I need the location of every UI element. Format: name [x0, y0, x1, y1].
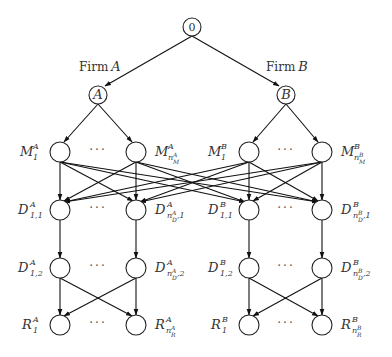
label-D-B-11: D B 1,1	[207, 200, 233, 220]
label-D-B-nD1: D B n B D ,1	[340, 200, 371, 223]
svg-text:D: D	[154, 202, 166, 217]
label-D-B-12: D B 1,2	[207, 258, 233, 278]
svg-text:···: ···	[89, 143, 106, 157]
supply-chain-tree-diagram: 0 A B FirmA FirmB ···	[0, 0, 392, 357]
svg-text:,1: ,1	[363, 211, 371, 220]
svg-text:M: M	[358, 158, 366, 165]
root-node: 0	[183, 18, 201, 36]
svg-text:1,2: 1,2	[30, 269, 43, 278]
svg-text:,2: ,2	[363, 269, 371, 278]
svg-text:A: A	[166, 258, 173, 267]
label-R-A-nR: R A n A R	[154, 315, 176, 338]
svg-text:A: A	[29, 258, 36, 267]
svg-text:FirmA: FirmA	[79, 59, 121, 74]
svg-text:M: M	[207, 144, 222, 159]
svg-text:M: M	[154, 144, 169, 159]
svg-text:···: ···	[89, 259, 106, 273]
d1-to-d2-edges	[60, 220, 322, 258]
svg-text:R: R	[210, 317, 221, 332]
svg-text:1,1: 1,1	[220, 211, 233, 220]
svg-text:B: B	[352, 200, 359, 209]
svg-text:R: R	[154, 317, 165, 332]
svg-text:M: M	[172, 158, 180, 165]
svg-text:B: B	[221, 315, 228, 324]
svg-text:,1: ,1	[177, 211, 185, 220]
svg-text:···: ···	[277, 316, 294, 330]
svg-text:R: R	[356, 331, 362, 338]
svg-text:1,2: 1,2	[220, 269, 233, 278]
svg-text:1: 1	[33, 153, 38, 162]
firm-B-node: B	[277, 86, 295, 104]
svg-text:A: A	[32, 142, 39, 151]
svg-text:B: B	[352, 258, 359, 267]
svg-text:,2: ,2	[177, 269, 185, 278]
label-D-A-12: D A 1,2	[17, 258, 43, 278]
label-D-A-11: D A 1,1	[17, 200, 43, 220]
firm-A-edge-label: FirmA	[79, 59, 121, 74]
svg-text:D: D	[154, 260, 166, 275]
label-D-A-nD2: D A n A D ,2	[154, 258, 185, 281]
firm-B-edge-label: FirmB	[266, 59, 308, 74]
svg-text:R: R	[170, 331, 176, 338]
svg-text:1: 1	[221, 153, 226, 162]
svg-text:···: ···	[277, 259, 294, 273]
svg-text:D: D	[17, 260, 29, 275]
label-R-B-nR: R B n B R	[340, 315, 362, 338]
label-R-B-1: R B 1	[210, 315, 228, 335]
svg-text:A: A	[166, 200, 173, 209]
label-D-B-nD2: D B n B D ,2	[340, 258, 371, 281]
root-node-label: 0	[189, 21, 196, 34]
svg-text:···: ···	[89, 316, 106, 330]
svg-text:1,1: 1,1	[30, 211, 43, 220]
svg-text:1: 1	[222, 326, 227, 335]
m-to-d1-edges	[60, 162, 322, 202]
label-M-A-nM: M A n A M	[154, 142, 180, 165]
svg-text:B: B	[351, 315, 358, 324]
svg-text:B: B	[220, 142, 227, 151]
svg-text:D: D	[340, 202, 352, 217]
svg-text:B: B	[353, 142, 360, 151]
svg-text:A: A	[29, 200, 36, 209]
label-R-A-1: R A 1	[21, 315, 39, 335]
svg-text:M: M	[19, 144, 34, 159]
svg-text:M: M	[340, 144, 355, 159]
svg-text:FirmB: FirmB	[266, 59, 308, 74]
firm-A-node: A	[89, 86, 107, 104]
label-M-B-nM: M B n B M	[340, 142, 366, 165]
label-M-A-1: M A 1	[19, 142, 39, 162]
svg-text:B: B	[219, 200, 226, 209]
svg-text:···: ···	[89, 201, 106, 215]
svg-text:B: B	[356, 324, 362, 331]
firm-to-m-edges	[64, 104, 318, 142]
svg-text:A: A	[92, 87, 102, 102]
svg-text:R: R	[340, 317, 351, 332]
svg-text:···: ···	[277, 143, 294, 157]
svg-text:A: A	[170, 324, 176, 331]
svg-text:···: ···	[277, 201, 294, 215]
svg-text:A: A	[32, 315, 39, 324]
root-edges	[105, 36, 279, 86]
svg-text:D: D	[207, 202, 219, 217]
svg-text:B: B	[358, 151, 364, 158]
svg-text:B: B	[280, 87, 291, 102]
svg-text:D: D	[17, 202, 29, 217]
svg-text:A: A	[167, 142, 174, 151]
svg-text:A: A	[172, 151, 178, 158]
svg-text:1: 1	[33, 326, 38, 335]
svg-text:B: B	[219, 258, 226, 267]
svg-text:A: A	[165, 315, 172, 324]
svg-text:D: D	[207, 260, 219, 275]
svg-text:R: R	[21, 317, 32, 332]
svg-text:D: D	[340, 260, 352, 275]
label-M-B-1: M B 1	[207, 142, 227, 162]
d2-to-r-edges	[60, 278, 322, 316]
label-D-A-nD1: D A n A D ,1	[154, 200, 185, 223]
